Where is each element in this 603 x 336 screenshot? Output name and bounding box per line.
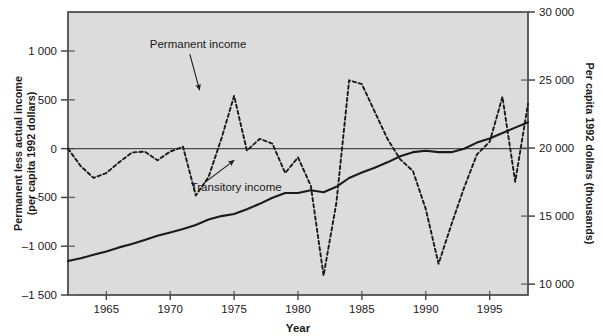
plot-area (68, 12, 528, 295)
x-tick-label: 1970 (157, 303, 183, 315)
y-tick-label-left: –1 000 (22, 240, 57, 252)
y-tick-label-right: 10 000 (539, 278, 574, 290)
x-tick-label: 1965 (94, 303, 120, 315)
y-tick-label-right: 30 000 (539, 6, 574, 18)
y-tick-label-left: 1 000 (28, 45, 57, 57)
y-tick-label-left: 500 (38, 94, 57, 106)
y-tick-label-right: 25 000 (539, 74, 574, 86)
annotation-transitory-income-label: Transitory income (191, 181, 282, 193)
x-axis-title: Year (286, 322, 311, 334)
y-tick-label-left: 0 (51, 143, 57, 155)
y-tick-label-right: 20 000 (539, 142, 574, 154)
x-tick-label: 1980 (285, 303, 311, 315)
y-tick-label-left: –1 500 (22, 289, 57, 301)
chart-svg: 19651970197519801985199019951 0005000–50… (0, 0, 603, 336)
y-tick-label-right: 15 000 (539, 210, 574, 222)
x-tick-label: 1995 (477, 303, 503, 315)
x-tick-label: 1985 (349, 303, 375, 315)
y-axis-title-left-line2: (per capita 1992 dollars) (25, 91, 37, 215)
x-tick-label: 1975 (221, 303, 247, 315)
y-axis-title-left-line1: Permanent less actual income (12, 76, 24, 231)
x-tick-label: 1990 (413, 303, 439, 315)
annotation-permanent-income-label: Permanent income (150, 38, 247, 50)
chart-figure: 19651970197519801985199019951 0005000–50… (0, 0, 603, 336)
y-axis-title-right: Per capita 1992 dollars (thousands) (584, 63, 596, 245)
